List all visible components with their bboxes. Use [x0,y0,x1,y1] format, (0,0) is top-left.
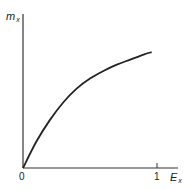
y-axis-label-text: m [6,10,15,22]
x-axis-label-text: E [170,171,177,183]
x-tick-label-0: 0 [19,172,25,182]
y-axis-label: mx [6,11,20,23]
x-tick-label-1: 1 [154,172,160,182]
line-chart [0,0,190,189]
x-axis-label-subscript: x [178,177,182,184]
y-axis-label-subscript: x [16,16,20,23]
x-axis-label: Ex [170,172,182,184]
data-curve [23,52,152,168]
